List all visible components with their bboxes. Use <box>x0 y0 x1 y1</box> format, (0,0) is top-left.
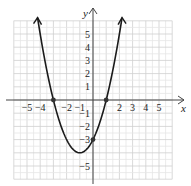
x-tick-label: −5 <box>22 102 33 113</box>
y-tick-label: 2 <box>85 68 90 79</box>
x-tick-label: 5 <box>157 102 162 113</box>
y-tick-label: −1 <box>79 108 90 119</box>
intercept-point <box>51 98 56 103</box>
y-tick-label: 1 <box>85 81 90 92</box>
axes <box>6 8 184 184</box>
y-tick-label: 3 <box>85 55 90 66</box>
intercept-point <box>104 98 109 103</box>
y-tick-label: 4 <box>85 42 90 53</box>
x-tick-label: 4 <box>143 102 148 113</box>
x-tick-label: −2 <box>61 102 72 113</box>
y-axis-label: y <box>82 7 88 19</box>
x-tick-label: −4 <box>35 102 46 113</box>
x-tick-label: 2 <box>117 102 122 113</box>
intercept-point <box>91 137 96 142</box>
y-tick-label: −3 <box>79 134 90 145</box>
y-tick-label: −2 <box>79 121 90 132</box>
x-axis-label: x <box>180 102 186 114</box>
y-tick-label: −5 <box>79 161 90 172</box>
parabola-chart: −5−4−2−1234554321−1−2−3−5 x y <box>0 0 191 186</box>
x-tick-label: 3 <box>130 102 135 113</box>
y-tick-label: 5 <box>85 29 90 40</box>
